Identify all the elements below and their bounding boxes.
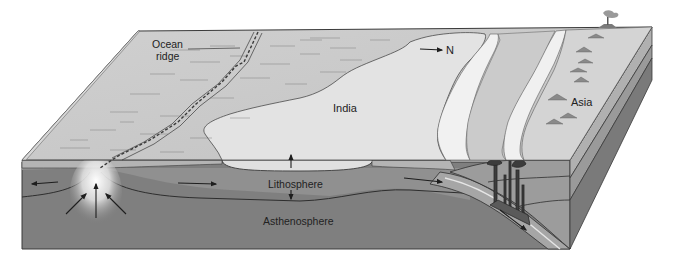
diagram-canvas: Ocean ridge N India Asia Lithosphere Ast… (0, 0, 673, 265)
label-ocean-ridge-line2: ridge (156, 50, 180, 62)
volcano-eruption-icon (598, 10, 618, 28)
label-ocean-ridge-line1: Ocean (152, 38, 183, 50)
label-lithosphere: Lithosphere (268, 178, 323, 190)
label-asthenosphere: Asthenosphere (263, 215, 334, 227)
label-asia: Asia (571, 96, 593, 108)
label-india: India (333, 102, 358, 114)
block-diagram: Ocean ridge N India Asia Lithosphere Ast… (0, 0, 673, 265)
label-north: N (446, 44, 454, 56)
front-face (22, 148, 570, 249)
top-face (22, 10, 652, 168)
